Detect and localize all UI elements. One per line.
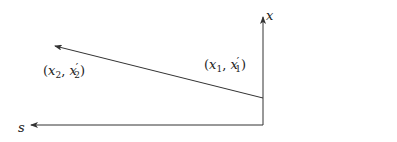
phase-space-diagram: x s (x1, x′1) (x2, x′2) — [0, 0, 397, 142]
x-axis-label: x — [266, 9, 273, 22]
comma: , — [222, 57, 226, 72]
s-axis-label: s — [18, 121, 25, 134]
comma: , — [61, 63, 65, 78]
point-2-label: (x2, x′2) — [43, 62, 85, 80]
paren-close: ) — [241, 57, 246, 72]
paren-close: ) — [80, 63, 85, 78]
point-1-label: (x1, x′1) — [204, 56, 246, 74]
